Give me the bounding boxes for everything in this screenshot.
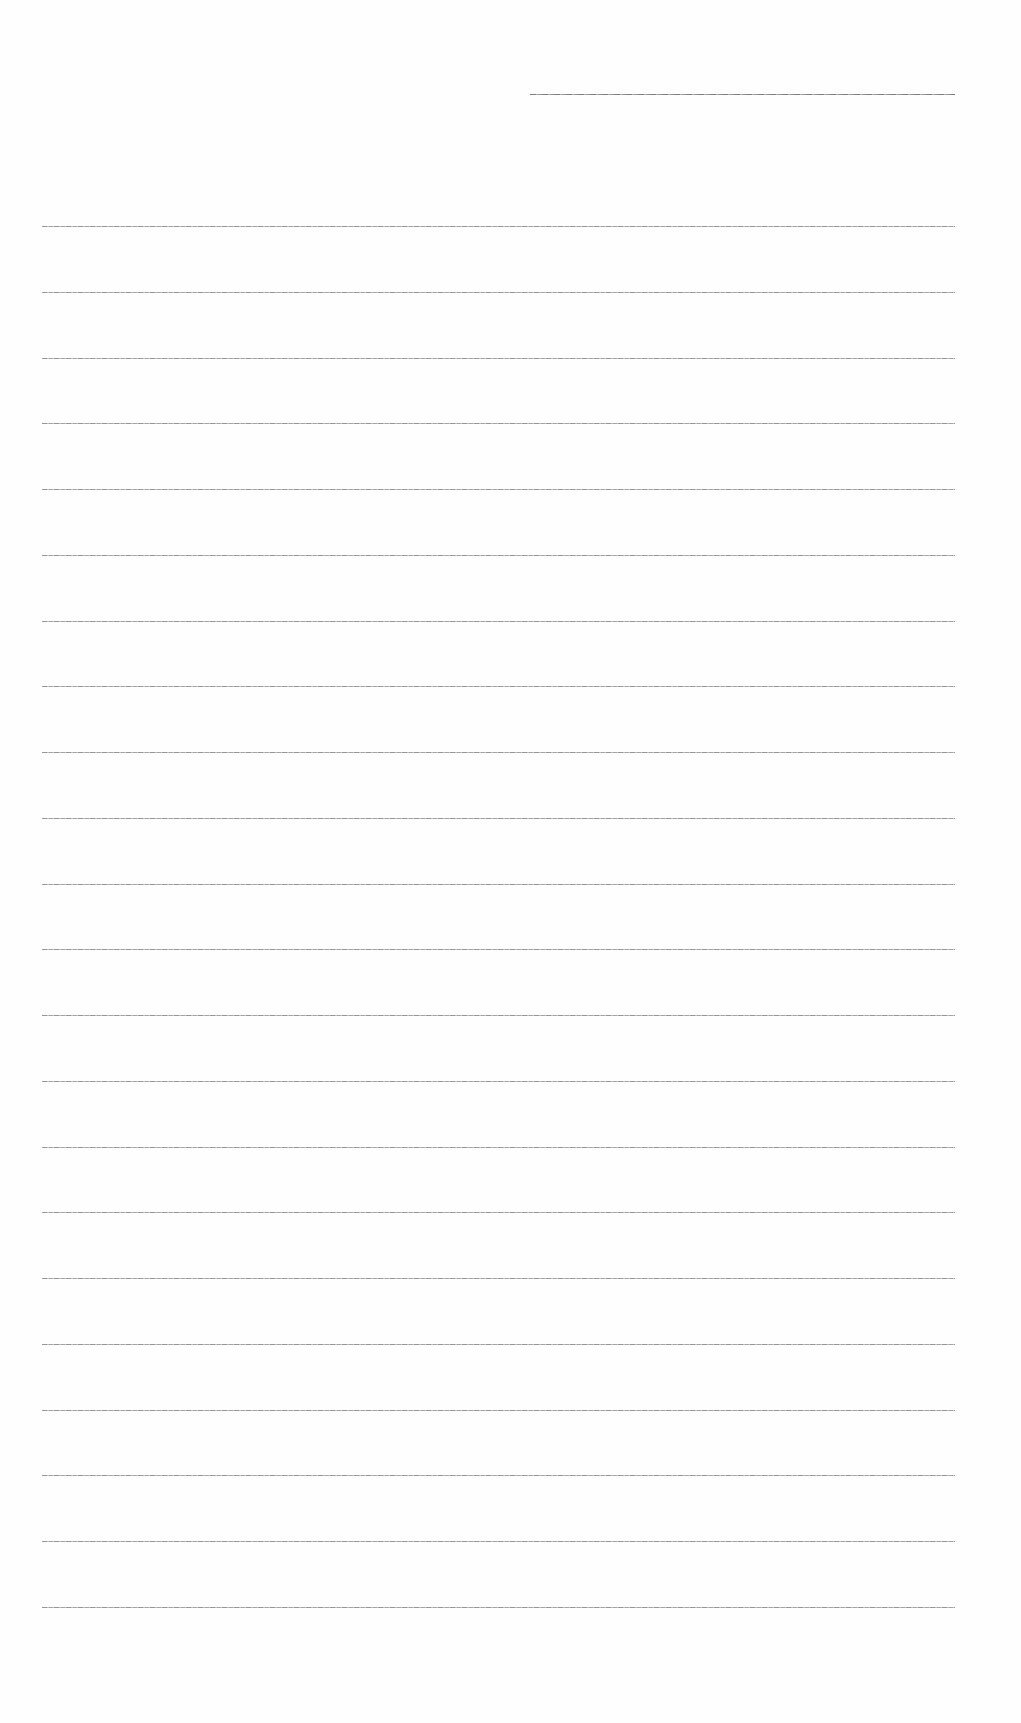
- ruled-line: [42, 1410, 955, 1411]
- ruled-line: [42, 1015, 955, 1016]
- ruled-line: [42, 621, 955, 622]
- ruled-line: [42, 752, 955, 753]
- ruled-line: [42, 1541, 955, 1542]
- ruled-line: [42, 1278, 955, 1279]
- ruled-line: [42, 292, 955, 293]
- ruled-line: [42, 489, 955, 490]
- ruled-line: [42, 1344, 955, 1345]
- ruled-line: [42, 1212, 955, 1213]
- ruled-line: [42, 884, 955, 885]
- ruled-line: [42, 555, 955, 556]
- ruled-line: [42, 818, 955, 819]
- ruled-line: [42, 949, 955, 950]
- lined-paper-page: [0, 0, 1021, 1723]
- header-write-line: [530, 94, 955, 95]
- ruled-line: [42, 1147, 955, 1148]
- ruled-line: [42, 226, 955, 227]
- ruled-line: [42, 423, 955, 424]
- ruled-line: [42, 1081, 955, 1082]
- ruled-line: [42, 686, 955, 687]
- ruled-line: [42, 358, 955, 359]
- ruled-line: [42, 1607, 955, 1608]
- ruled-line: [42, 1475, 955, 1476]
